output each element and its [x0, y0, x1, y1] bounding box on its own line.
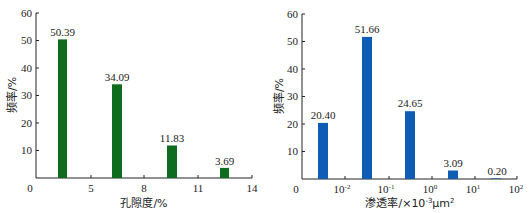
bar: [491, 178, 501, 179]
y-axis-title: 频率/%: [5, 77, 19, 113]
bar: [318, 123, 328, 179]
bar: [58, 39, 67, 178]
y-tick-label: 20: [21, 117, 33, 129]
bar-value-label: 34.09: [105, 71, 130, 83]
bar: [112, 84, 122, 178]
y-tick-label: 60: [287, 8, 299, 20]
permeability-chart: 10 20 30 40 50 60 0 10-2 10-1 100 101 10…: [272, 8, 524, 211]
x-tick-label: 10-2: [334, 183, 351, 195]
y-tick-label: 10: [287, 145, 299, 157]
y-tick-label: 20: [287, 118, 299, 130]
x-tick-label: 10-1: [378, 183, 395, 195]
origin-label: 0: [293, 183, 299, 195]
y-tick-label: 40: [287, 63, 299, 75]
y-tick-label: 50: [21, 34, 33, 46]
y-axis-title: 频率/%: [272, 78, 286, 114]
x-tick-label: 100: [423, 183, 438, 195]
bar-value-label: 11.83: [160, 132, 185, 144]
y-tick-label: 50: [287, 35, 299, 47]
x-tick-label: 5: [88, 182, 94, 194]
bar: [405, 111, 415, 179]
bar-value-label: 24.65: [398, 97, 423, 109]
x-tick-label: 101: [466, 183, 481, 195]
bar-value-label: 51.66: [355, 23, 380, 35]
y-tick-label: 30: [21, 89, 33, 101]
bar: [448, 171, 458, 180]
origin-label: 0: [27, 182, 33, 194]
x-tick-label: 14: [247, 182, 259, 194]
x-axis-title: 渗透率/×10-3μm2: [365, 196, 454, 210]
bar-value-label: 50.39: [50, 26, 75, 38]
y-tick-label: 60: [21, 7, 33, 19]
x-tick-label: 102: [509, 183, 524, 195]
y-tick-label: 40: [21, 62, 33, 74]
y-tick-label: 10: [21, 144, 33, 156]
y-tick-label: 30: [287, 90, 299, 102]
bar-value-label: 20.40: [311, 109, 336, 121]
bar-value-label: 3.69: [215, 155, 235, 167]
bar: [167, 146, 177, 179]
x-tick-label: 8: [141, 182, 147, 194]
porosity-chart: 10 20 30 40 50 60 0 5 8 11 14 孔隙度/% 频率/%…: [5, 7, 258, 211]
bar-value-label: 0.20: [487, 165, 507, 177]
bar-value-label: 3.09: [443, 157, 463, 169]
x-tick-label: 11: [193, 182, 204, 194]
figure: 10 20 30 40 50 60 0 5 8 11 14 孔隙度/% 频率/%…: [0, 0, 529, 213]
x-axis-title: 孔隙度/%: [120, 196, 167, 210]
bar: [362, 37, 372, 179]
bar: [220, 168, 229, 178]
